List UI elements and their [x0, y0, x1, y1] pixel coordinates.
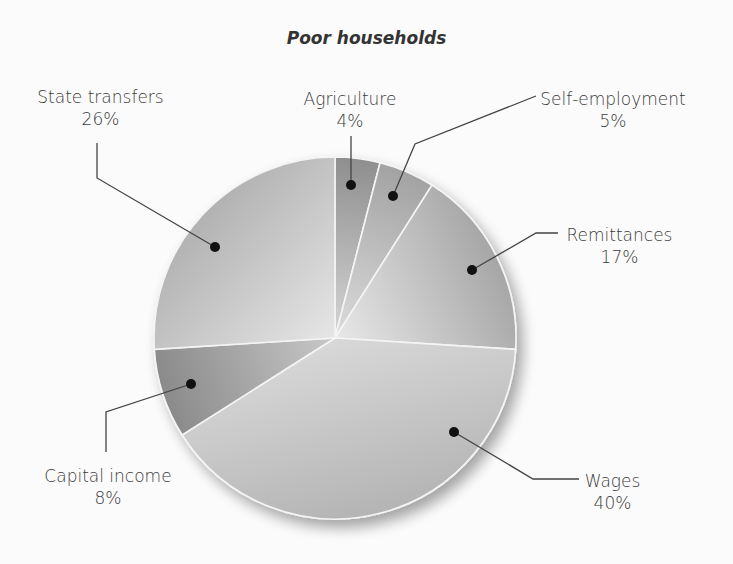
pie-chart: Poor households Agriculture 4% Self-empl…: [0, 0, 733, 564]
label-capital-income: Capital income 8%: [28, 465, 188, 509]
label-remittances: Remittances 17%: [562, 224, 677, 268]
label-value: 5%: [538, 110, 688, 132]
label-value: 8%: [28, 487, 188, 509]
label-value: 4%: [300, 110, 400, 132]
pie-slices: [154, 157, 516, 519]
leader-dot-capital-income: [186, 379, 196, 389]
label-name: Self-employment: [540, 89, 686, 109]
label-name: Capital income: [44, 466, 171, 486]
leader-dot-remittances: [467, 265, 477, 275]
label-value: 40%: [580, 492, 645, 514]
label-name: Wages: [585, 471, 641, 491]
label-agriculture: Agriculture 4%: [300, 88, 400, 132]
label-state-transfers: State transfers 26%: [28, 86, 173, 130]
label-value: 26%: [28, 108, 173, 130]
label-value: 17%: [562, 246, 677, 268]
label-wages: Wages 40%: [580, 470, 645, 514]
leader-dot-state-transfers: [210, 242, 220, 252]
pie-slice-state-transfers: [154, 157, 335, 349]
label-self-employment: Self-employment 5%: [538, 88, 688, 132]
label-name: Remittances: [567, 225, 673, 245]
leader-dot-wages: [449, 427, 459, 437]
leader-dot-agriculture: [346, 180, 356, 190]
leader-dot-self-employment: [388, 191, 398, 201]
label-name: Agriculture: [304, 89, 397, 109]
label-name: State transfers: [37, 87, 163, 107]
